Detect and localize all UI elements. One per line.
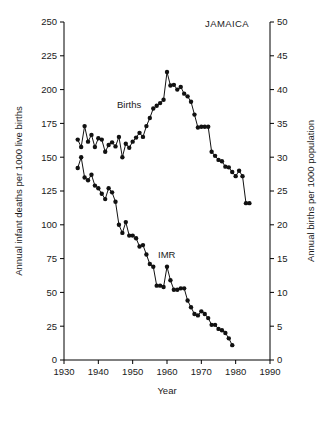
data-point [185,298,189,302]
chart-figure: 0255075100125150175200225250 05101520253… [0,0,333,428]
data-point [89,133,93,137]
data-point [93,145,97,149]
data-point [151,106,155,110]
data-point [110,140,114,144]
x-axis-title: Year [157,385,176,396]
y-tick-label-right: 0 [277,354,282,365]
data-point [79,145,83,149]
data-point [185,94,189,98]
data-point [148,116,152,120]
data-point [220,159,224,163]
data-point [220,328,224,332]
data-point [165,265,169,269]
x-tick-label: 1990 [259,366,280,377]
y-tick-label-right: 30 [277,152,288,163]
data-point [158,101,162,105]
data-point [100,137,104,141]
series-imr [76,155,235,347]
data-point [209,150,213,154]
data-point [179,85,183,89]
data-point [227,336,231,340]
data-point [130,139,134,143]
data-point [137,131,141,135]
x-tick-label: 1950 [122,366,143,377]
y-tick-label-left: 225 [41,50,57,61]
data-point [117,135,121,139]
y-tick-label-right: 5 [277,321,282,332]
y-tick-label-left: 150 [41,152,57,163]
data-point [79,155,83,159]
y-tick-label-right: 15 [277,253,288,264]
chart-title: JAMAICA [205,18,249,29]
data-point [124,220,128,224]
y-axis-left-ticks: 0255075100125150175200225250 [41,16,64,365]
data-point [196,313,200,317]
y-tick-label-left: 175 [41,118,57,129]
y-tick-label-right: 45 [277,50,288,61]
data-point [182,286,186,290]
y-tick-label-left: 250 [41,16,57,27]
y-tick-label-left: 50 [46,287,57,298]
data-point [113,144,117,148]
data-point [96,186,100,190]
data-point [206,125,210,129]
data-point [134,135,138,139]
data-point [237,169,241,173]
data-point [113,200,117,204]
data-point [106,186,110,190]
data-point [124,141,128,145]
x-tick-label: 1980 [225,366,246,377]
y-tick-label-right: 50 [277,16,288,27]
y-axis-left-title: Annual infant deaths per 1000 live birth… [13,106,24,276]
data-point [86,139,90,143]
data-point [141,243,145,247]
data-series-layer [76,70,252,348]
data-point [182,91,186,95]
series-label-imr: IMR [158,249,176,260]
data-point [230,343,234,347]
data-point [103,197,107,201]
y-tick-label-left: 75 [46,253,57,264]
y-tick-label-left: 25 [46,321,57,332]
data-point [189,305,193,309]
y-tick-label-left: 0 [52,354,57,365]
data-point [192,112,196,116]
y-tick-label-left: 100 [41,219,57,230]
data-point [100,192,104,196]
data-point [189,100,193,104]
data-point [155,104,159,108]
x-axis-ticks: 1930194019501960197019801990 [53,360,280,377]
data-point [223,331,227,335]
y-tick-label-right: 25 [277,185,288,196]
data-point [151,265,155,269]
data-point [148,262,152,266]
data-point [203,312,207,316]
data-point [206,316,210,320]
data-point [213,323,217,327]
data-point [93,183,97,187]
data-point [165,70,169,74]
data-point [76,166,80,170]
data-point [82,175,86,179]
y-tick-label-right: 20 [277,219,288,230]
x-tick-label: 1930 [53,366,74,377]
data-point [161,98,165,102]
data-point [141,135,145,139]
data-point [130,233,134,237]
x-tick-label: 1940 [88,366,109,377]
data-point [144,124,148,128]
data-point [230,170,234,174]
data-point [117,223,121,227]
data-point [168,278,172,282]
y-tick-label-left: 125 [41,185,57,196]
data-point [247,201,251,205]
chart-canvas: 0255075100125150175200225250 05101520253… [0,0,333,428]
data-point [82,124,86,128]
data-point [233,174,237,178]
series-line [78,72,250,203]
data-point [89,173,93,177]
y-tick-label-right: 10 [277,287,288,298]
data-point [134,236,138,240]
data-point [213,154,217,158]
y-tick-label-right: 40 [277,84,288,95]
